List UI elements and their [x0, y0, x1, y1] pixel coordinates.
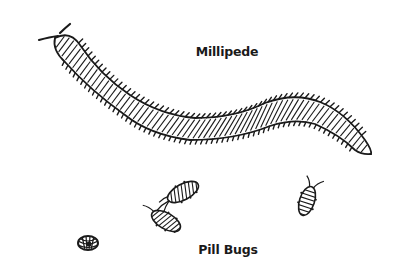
- pill-bug-1-drawing: [154, 175, 204, 214]
- millipede-label: Millipede: [196, 44, 259, 59]
- illustration: [0, 0, 396, 271]
- pill-bug-3-drawing: [294, 175, 324, 218]
- pill-bugs-label: Pill Bugs: [198, 242, 257, 257]
- curled-pill-bug-drawing: [78, 236, 98, 250]
